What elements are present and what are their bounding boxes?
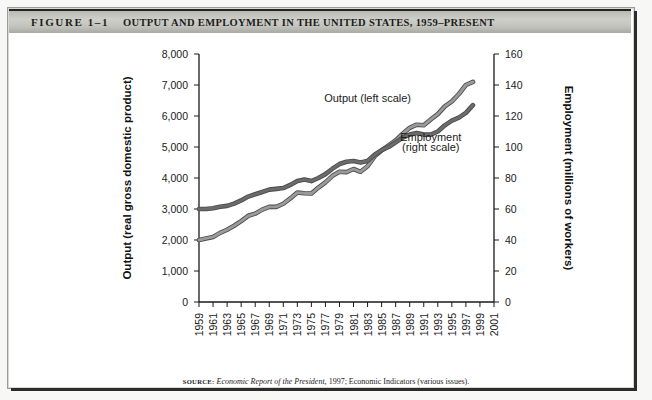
svg-text:1991: 1991	[418, 313, 430, 337]
svg-text:1959: 1959	[193, 313, 205, 337]
source-label: SOURCE:	[183, 378, 215, 385]
figure-page: FIGURE 1–1 OUTPUT AND EMPLOYMENT IN THE …	[0, 0, 652, 400]
svg-text:1965: 1965	[235, 313, 247, 337]
svg-text:1983: 1983	[362, 313, 374, 337]
svg-text:1995: 1995	[446, 313, 458, 337]
svg-text:100: 100	[505, 141, 523, 153]
svg-text:1969: 1969	[263, 313, 275, 337]
svg-text:1993: 1993	[432, 313, 444, 337]
source-rest: 1997; Economic Indicators (various issue…	[327, 377, 470, 386]
figure-title: OUTPUT AND EMPLOYMENT IN THE UNITED STAT…	[123, 17, 495, 28]
svg-text:0: 0	[182, 296, 188, 308]
svg-text:1963: 1963	[221, 313, 233, 337]
source-italic: Economic Report of the President,	[217, 377, 327, 386]
dual-axis-line-chart: 01,0002,0003,0004,0005,0006,0007,0008,00…	[9, 40, 631, 370]
svg-text:1987: 1987	[390, 313, 402, 337]
svg-text:80: 80	[505, 172, 517, 184]
svg-text:1971: 1971	[277, 313, 289, 337]
svg-text:160: 160	[505, 48, 523, 60]
svg-text:2,000: 2,000	[162, 234, 188, 246]
svg-text:Output (left scale): Output (left scale)	[324, 92, 411, 104]
svg-text:1985: 1985	[376, 313, 388, 337]
svg-text:4,000: 4,000	[162, 172, 188, 184]
svg-text:1973: 1973	[291, 313, 303, 337]
svg-text:1961: 1961	[207, 313, 219, 337]
svg-text:3,000: 3,000	[162, 203, 188, 215]
svg-text:120: 120	[505, 110, 523, 122]
chart-area: 01,0002,0003,0004,0005,0006,0007,0008,00…	[9, 40, 631, 370]
svg-text:0: 0	[505, 296, 511, 308]
svg-text:140: 140	[505, 79, 523, 91]
source-note: SOURCE: Economic Report of the President…	[0, 377, 652, 386]
y-axis-right-ticks: 020406080100120140160	[494, 48, 523, 308]
svg-text:1997: 1997	[460, 313, 472, 337]
svg-text:1989: 1989	[404, 313, 416, 337]
svg-text:1967: 1967	[249, 313, 261, 337]
svg-text:1975: 1975	[305, 313, 317, 337]
svg-text:2001: 2001	[488, 313, 500, 337]
x-axis-ticks: 1959196119631965196719691971197319751977…	[193, 302, 500, 336]
data-series	[199, 82, 473, 240]
svg-text:40: 40	[505, 234, 517, 246]
svg-text:8,000: 8,000	[162, 48, 188, 60]
svg-text:7,000: 7,000	[162, 79, 188, 91]
svg-text:5,000: 5,000	[162, 141, 188, 153]
svg-text:Employment (millions of worker: Employment (millions of workers)	[563, 86, 575, 271]
svg-text:6,000: 6,000	[162, 110, 188, 122]
svg-text:20: 20	[505, 265, 517, 277]
y-axis-left-ticks: 01,0002,0003,0004,0005,0006,0007,0008,00…	[162, 48, 199, 308]
figure-header-band: FIGURE 1–1 OUTPUT AND EMPLOYMENT IN THE …	[9, 9, 631, 33]
figure-number: FIGURE 1–1	[31, 16, 109, 28]
svg-text:(right scale): (right scale)	[402, 141, 459, 153]
svg-text:60: 60	[505, 203, 517, 215]
svg-text:1,000: 1,000	[162, 265, 188, 277]
svg-text:1999: 1999	[474, 313, 486, 337]
svg-text:1979: 1979	[333, 313, 345, 337]
svg-text:Output (real gross domestic pr: Output (real gross domestic product)	[121, 76, 133, 279]
svg-text:1981: 1981	[348, 313, 360, 337]
svg-text:1977: 1977	[319, 313, 331, 337]
